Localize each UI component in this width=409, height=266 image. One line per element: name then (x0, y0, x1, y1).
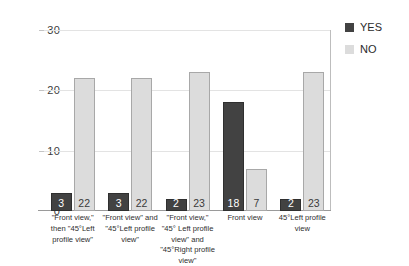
bar-no-2[interactable]: 23 (189, 72, 210, 211)
bar-no-1[interactable]: 22 (131, 78, 152, 211)
bar-group-1: 3 22 (101, 30, 158, 211)
bar-value-label: 23 (193, 198, 205, 209)
bar-chart: 30 20 10 0 3 22 3 (0, 0, 409, 266)
chart-legend: YES NO (345, 22, 382, 66)
bar-group-2: 2 23 (159, 30, 216, 211)
category-label-2: "Front view," "45° Left profile view" an… (159, 213, 216, 266)
bar-yes-3[interactable]: 18 (223, 102, 244, 211)
bar-group-4: 2 23 (274, 30, 331, 211)
bar-yes-1[interactable]: 3 (108, 193, 129, 211)
category-label-0: "Front view," then "45°Left profile view… (44, 213, 101, 266)
bar-value-label: 2 (173, 198, 179, 209)
bar-value-label: 23 (308, 198, 320, 209)
bar-value-label: 2 (288, 198, 294, 209)
bar-value-label: 22 (136, 198, 148, 209)
bar-no-0[interactable]: 22 (74, 78, 95, 211)
bar-group-3: 18 7 (216, 30, 273, 211)
bar-value-label: 3 (58, 198, 64, 209)
category-label-1: "Front view" and "45°Left profile view" (101, 213, 158, 266)
legend-swatch-yes-icon (345, 23, 354, 32)
legend-swatch-no-icon (345, 45, 354, 54)
legend-item-no[interactable]: NO (345, 44, 382, 55)
x-axis-category-labels: "Front view," then "45°Left profile view… (44, 213, 331, 266)
bar-groups: 3 22 3 22 2 23 (44, 30, 331, 211)
bar-value-label: 3 (116, 198, 122, 209)
bar-value-label: 18 (228, 198, 240, 209)
legend-item-yes[interactable]: YES (345, 22, 382, 33)
legend-label-yes: YES (360, 22, 382, 33)
legend-label-no: NO (360, 44, 377, 55)
category-label-4: 45°Left profile view (274, 213, 331, 266)
bar-yes-0[interactable]: 3 (51, 193, 72, 211)
bar-value-label: 7 (254, 198, 260, 209)
bar-value-label: 22 (78, 198, 90, 209)
bar-no-3[interactable]: 7 (246, 169, 267, 211)
bar-group-0: 3 22 (44, 30, 101, 211)
category-label-3: Front view (216, 213, 273, 266)
bar-yes-4[interactable]: 2 (280, 199, 301, 211)
bar-yes-2[interactable]: 2 (166, 199, 187, 211)
bar-no-4[interactable]: 23 (303, 72, 324, 211)
plot-area: 3 22 3 22 2 23 (44, 30, 331, 211)
